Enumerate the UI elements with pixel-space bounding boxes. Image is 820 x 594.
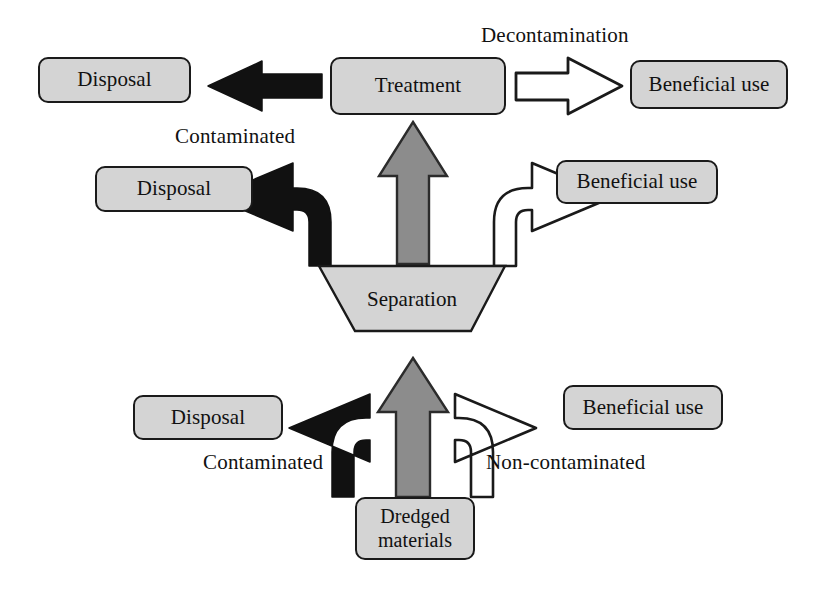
edge-label-contaminated-bottom: Contaminated [203, 450, 323, 475]
arrow-source-to-separation [378, 358, 448, 497]
edge-label-contaminated-middle-text: Contaminated [175, 124, 295, 148]
edge-label-decontamination: Decontamination [481, 23, 629, 48]
edge-label-non-contaminated-bottom-text: Non-contaminated [486, 450, 645, 474]
edge-label-decontamination-text: Decontamination [481, 23, 629, 47]
edge-label-non-contaminated-bottom: Non-contaminated [486, 450, 645, 475]
separation-label-text: Separation [367, 287, 457, 311]
node-dredged-materials-line1: Dredged [380, 505, 450, 529]
node-disposal-top-label: Disposal [77, 68, 151, 92]
arrow-separation-to-treatment [379, 122, 447, 264]
separation-label: Separation [319, 287, 505, 312]
node-beneficial-use-bottom-label: Beneficial use [583, 396, 704, 420]
flow-diagram: Disposal Treatment Beneficial use Dispos… [0, 0, 820, 594]
node-beneficial-use-bottom[interactable]: Beneficial use [563, 385, 723, 430]
node-beneficial-use-middle[interactable]: Beneficial use [556, 160, 718, 204]
edge-label-contaminated-bottom-text: Contaminated [203, 450, 323, 474]
arrow-non-contaminated-bottom [455, 394, 536, 497]
node-dredged-materials[interactable]: Dredged materials [355, 497, 475, 560]
node-treatment[interactable]: Treatment [330, 57, 506, 115]
node-beneficial-use-middle-label: Beneficial use [577, 170, 698, 194]
node-dredged-materials-line2: materials [378, 529, 452, 553]
arrow-contaminated-bottom [289, 394, 370, 497]
node-disposal-middle[interactable]: Disposal [95, 166, 253, 212]
arrow-decontamination-top [516, 58, 622, 114]
node-disposal-top[interactable]: Disposal [38, 57, 191, 103]
node-disposal-bottom-label: Disposal [171, 406, 245, 430]
node-disposal-bottom[interactable]: Disposal [133, 395, 283, 440]
arrow-contaminated-top [208, 61, 322, 111]
edge-label-contaminated-middle: Contaminated [175, 124, 295, 149]
node-disposal-middle-label: Disposal [137, 177, 211, 201]
node-treatment-label: Treatment [375, 74, 461, 98]
node-beneficial-use-top[interactable]: Beneficial use [630, 60, 788, 109]
node-beneficial-use-top-label: Beneficial use [649, 73, 770, 97]
